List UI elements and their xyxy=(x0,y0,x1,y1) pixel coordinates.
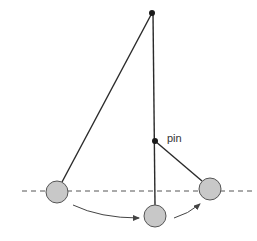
pendulum-diagram: pin xyxy=(0,0,257,241)
arrow-bottom-to-right xyxy=(174,204,200,218)
pin-label: pin xyxy=(167,132,182,144)
bob-right xyxy=(199,178,221,200)
bob-left xyxy=(46,181,68,203)
pivot-point xyxy=(149,10,155,16)
arrow-left-to-bottom xyxy=(73,205,139,218)
string-vertical xyxy=(153,13,155,205)
string-pin-to-right xyxy=(155,141,202,181)
pin-point xyxy=(152,138,158,144)
string-left xyxy=(62,13,152,182)
bob-bottom xyxy=(144,205,166,227)
